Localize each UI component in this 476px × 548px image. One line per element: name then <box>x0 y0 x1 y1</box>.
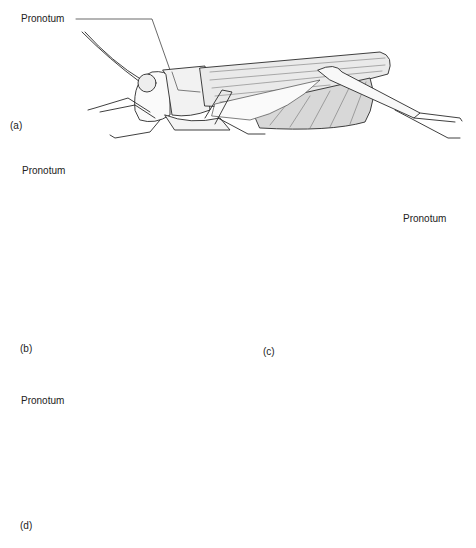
panel-letter-b: (b) <box>20 343 32 354</box>
panel-letter-c: (c) <box>263 346 275 357</box>
pronotum-label-c: Pronotum <box>403 213 446 224</box>
grasshopper-illustration <box>76 19 462 138</box>
panel-letter-d: (d) <box>20 520 32 531</box>
panel-letter-a: (a) <box>10 120 22 131</box>
pronotum-label-a: Pronotum <box>21 13 64 24</box>
pronotum-label-d: Pronotum <box>21 395 64 406</box>
pronotum-label-b: Pronotum <box>22 165 65 176</box>
figure-drawing <box>0 0 476 548</box>
